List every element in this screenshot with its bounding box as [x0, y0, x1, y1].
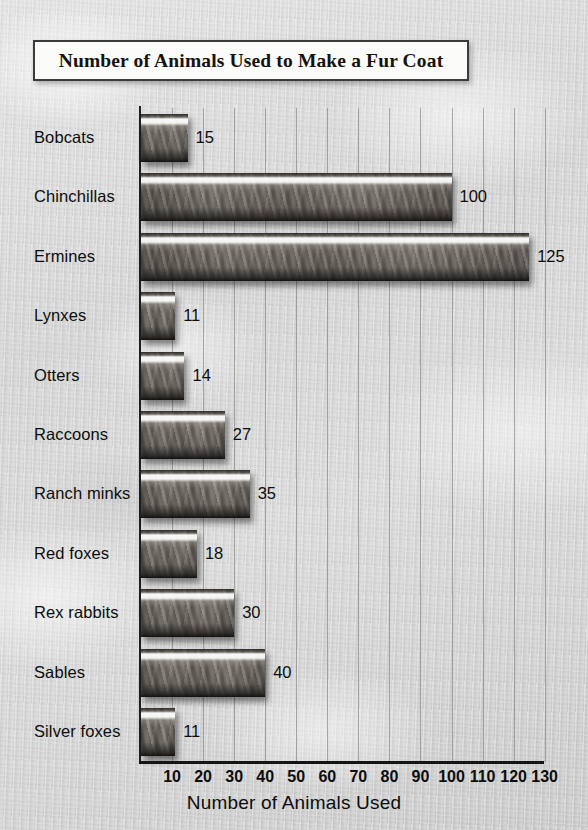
x-tick-label: 110 [470, 768, 496, 786]
bar-value-label: 125 [537, 247, 565, 266]
bar [141, 173, 452, 221]
x-tick-label: 30 [225, 768, 243, 786]
gridline-100 [452, 108, 453, 762]
x-tick-label: 80 [380, 768, 398, 786]
category-label: Red foxes [34, 544, 109, 563]
bar-value-label: 40 [273, 663, 291, 682]
category-label: Rex rabbits [34, 603, 119, 622]
x-tick-label: 40 [256, 768, 274, 786]
x-tick-label: 120 [500, 768, 527, 786]
bar-value-label: 15 [196, 128, 214, 147]
x-tick-label: 10 [163, 768, 181, 786]
bar-value-label: 35 [258, 484, 276, 503]
bar-value-label: 18 [205, 544, 223, 563]
category-label: Ranch minks [34, 484, 130, 503]
gridline-130 [545, 108, 546, 762]
bar [141, 292, 175, 340]
bar [141, 470, 250, 518]
x-tick-label: 60 [318, 768, 336, 786]
gridline-120 [514, 108, 515, 762]
bar-value-label: 100 [460, 187, 488, 206]
bar [141, 589, 234, 637]
bar [141, 649, 265, 697]
x-tick-label: 70 [349, 768, 367, 786]
category-label: Silver foxes [34, 722, 120, 741]
category-label: Raccoons [34, 425, 108, 444]
category-label: Otters [34, 366, 80, 385]
bar [141, 708, 175, 756]
category-label: Sables [34, 663, 85, 682]
bar-value-label: 14 [192, 366, 210, 385]
bar-value-label: 11 [183, 722, 200, 741]
bar-value-label: 11 [183, 306, 200, 325]
bar [141, 233, 529, 281]
x-tick-label: 100 [438, 768, 465, 786]
plot-area: 151001251114273518304011 BobcatsChinchil… [0, 0, 588, 830]
x-axis-title: Number of Animals Used [0, 792, 588, 814]
bar [141, 352, 184, 400]
x-tick-label: 90 [412, 768, 430, 786]
category-label: Ermines [34, 247, 95, 266]
x-tick-label: 130 [531, 768, 558, 786]
category-label: Chinchillas [34, 187, 115, 206]
x-tick-label: 50 [287, 768, 305, 786]
category-label: Lynxes [34, 306, 86, 325]
x-tick-label: 20 [194, 768, 212, 786]
x-axis-line [139, 761, 544, 764]
bar [141, 530, 197, 578]
category-label: Bobcats [34, 128, 94, 147]
bar [141, 114, 188, 162]
bar [141, 411, 225, 459]
bar-value-label: 30 [242, 603, 260, 622]
fur-coat-bar-chart: Number of Animals Used to Make a Fur Coa… [0, 0, 588, 830]
bar-value-label: 27 [233, 425, 251, 444]
